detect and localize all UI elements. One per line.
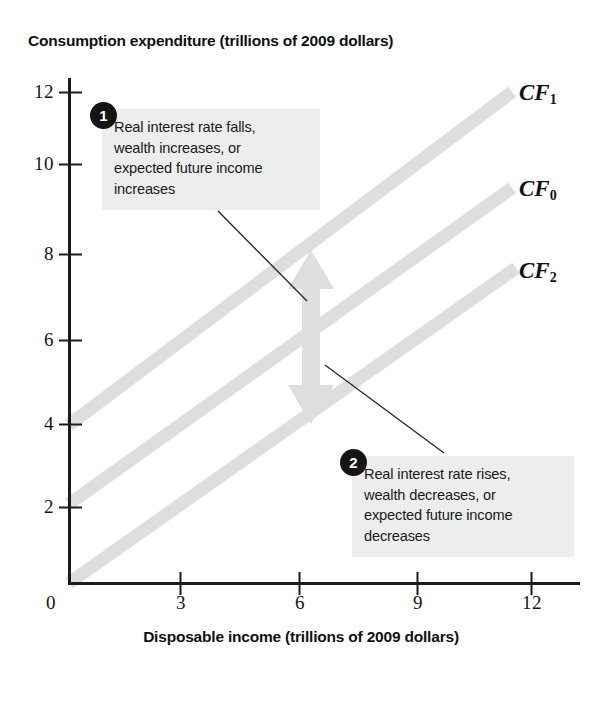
callout-1-text: Real interest rate falls, wealth increas… (102, 109, 320, 207)
y-tick-label-8: 8 (20, 243, 54, 265)
series-label-cf1: CF1 (519, 80, 557, 106)
series-label-cf2: CF2 (519, 258, 557, 284)
callout-1: Real interest rate falls, wealth increas… (102, 109, 320, 210)
callout-2-line-3: expected future income (364, 505, 564, 526)
callout-2-line-4: decreases (364, 526, 564, 547)
x-tick-label-0: 0 (34, 592, 68, 614)
y-tick-label-4: 4 (20, 413, 54, 435)
series-label-cf1-sub: 1 (550, 92, 557, 107)
x-tick-label-6: 6 (283, 592, 317, 614)
series-label-cf0-sub: 0 (550, 188, 557, 203)
callout-1-line-1: Real interest rate falls, (114, 117, 310, 138)
x-axis-title: Disposable income (trillions of 2009 dol… (0, 628, 602, 646)
series-label-cf1-text: CF (519, 80, 550, 105)
y-tick-label-10: 10 (20, 153, 54, 175)
series-label-cf0-text: CF (519, 176, 550, 201)
x-tick-label-9: 9 (401, 592, 435, 614)
callout-1-line-4: increases (114, 179, 310, 200)
callout-2-line-1: Real interest rate rises, (364, 464, 564, 485)
series-label-cf0: CF0 (519, 176, 557, 202)
callout-2-text: Real interest rate rises, wealth decreas… (352, 456, 574, 554)
y-tick-label-12: 12 (20, 81, 54, 103)
callout-2-line-2: wealth decreases, or (364, 485, 564, 506)
y-tick-label-2: 2 (20, 496, 54, 518)
callout-1-line-2: wealth increases, or (114, 138, 310, 159)
callout-1-line-3: expected future income (114, 158, 310, 179)
series-label-cf2-text: CF (519, 258, 550, 283)
series-label-cf2-sub: 2 (550, 270, 557, 285)
callout-1-badge: 1 (90, 102, 117, 129)
callout-2-badge: 2 (340, 449, 367, 476)
y-tick-label-6: 6 (20, 329, 54, 351)
consumption-function-figure: Consumption expenditure (trillions of 20… (0, 0, 602, 705)
x-tick-label-12: 12 (515, 592, 549, 614)
callout-2-leader-line (325, 365, 444, 453)
x-tick-label-3: 3 (164, 592, 198, 614)
callout-2: Real interest rate rises, wealth decreas… (352, 456, 574, 557)
